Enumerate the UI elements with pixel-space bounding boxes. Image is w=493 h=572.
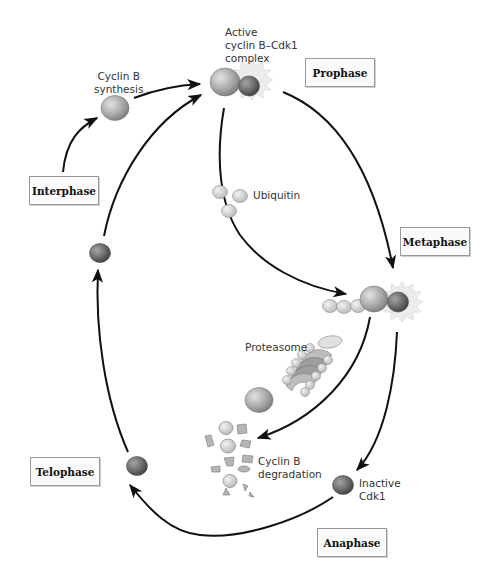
arrow-interphase-to-synthesis xyxy=(63,118,97,172)
inactive-cdk1-icon xyxy=(333,476,354,495)
arrow-synthesis-to-complex xyxy=(134,84,200,98)
label-inactive-cdk1: Inactive Cdk1 xyxy=(359,477,401,503)
ubiquitin-icon xyxy=(337,301,352,314)
cdk1-icon xyxy=(388,292,409,312)
ubiquitin-icon xyxy=(213,186,228,199)
cyclin-b-molecule xyxy=(101,96,129,121)
ubiquitin-icon xyxy=(222,205,237,218)
arrow-telophase-to-interphase xyxy=(97,270,128,452)
cdk1-icon xyxy=(127,457,148,476)
phase-box-metaphase: Metaphase xyxy=(400,227,470,256)
cyclin-b-molecule xyxy=(245,388,273,413)
label-cyclin-degradation: Cyclin B degradation xyxy=(258,455,322,481)
phase-box-telophase: Telophase xyxy=(30,457,100,486)
cyclin-b-icon xyxy=(360,286,388,312)
ubiquitin-icon xyxy=(233,190,248,203)
phase-box-prophase: Prophase xyxy=(305,58,375,87)
cyclin-fragments xyxy=(205,422,254,498)
cyclin-b-icon xyxy=(210,68,240,96)
phase-box-interphase: Interphase xyxy=(29,176,99,205)
cell-cycle-diagram xyxy=(0,0,493,572)
arrow-anaphase-to-telophase xyxy=(130,485,333,536)
active-complex xyxy=(210,60,273,100)
label-cyclin-synthesis: Cyclin B synthesis xyxy=(94,70,143,96)
ubiquitinated-complex xyxy=(323,282,424,322)
ubiquitin-group xyxy=(213,186,248,218)
cdk1-icon xyxy=(90,244,111,263)
label-active-complex: Active cyclin B–Cdk1 complex xyxy=(225,26,298,65)
label-ubiquitin: Ubiquitin xyxy=(253,189,300,202)
ubiquitin-icon xyxy=(323,300,338,313)
phase-box-anaphase: Anaphase xyxy=(317,528,387,557)
label-proteasome: Proteasome xyxy=(245,341,307,354)
arrow-prophase-to-metaphase xyxy=(283,92,393,268)
arrow-to-inactive-cdk1 xyxy=(357,332,397,470)
cdk1-icon xyxy=(239,76,260,96)
